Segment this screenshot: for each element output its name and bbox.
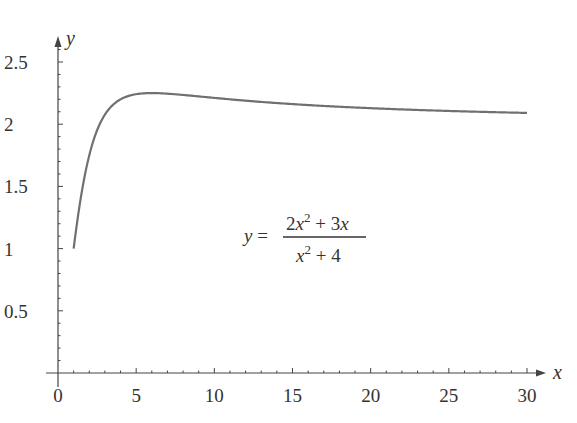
equation-numerator: 2x2 + 3x	[286, 210, 349, 234]
x-axis-label: x	[552, 361, 562, 383]
y-axis-label: y	[64, 27, 75, 50]
chart: x051015202530 y0.511.522.5 y = 2x2 + 3x …	[0, 0, 577, 423]
x-axis-arrow-icon	[536, 370, 546, 377]
y-axis-arrow-icon	[55, 36, 62, 47]
y-tick-label: 2.5	[4, 52, 28, 73]
y-tick-label: 0.5	[4, 301, 28, 322]
y-axis: y0.511.522.5	[4, 27, 75, 387]
equation-denominator: x2 + 4	[295, 242, 341, 266]
function-equation: y = 2x2 + 3x x2 + 4	[242, 210, 366, 266]
x-tick-label: 15	[283, 385, 302, 406]
x-tick-label: 0	[53, 385, 63, 406]
x-tick-label: 10	[205, 385, 224, 406]
x-axis: x051015202530	[46, 361, 562, 406]
x-tick-label: 20	[361, 385, 380, 406]
y-tick-label: 1.5	[4, 176, 28, 197]
x-tick-label: 25	[439, 385, 458, 406]
y-tick-label: 1	[4, 239, 14, 260]
x-tick-label: 5	[131, 385, 141, 406]
y-tick-label: 2	[4, 114, 14, 135]
x-tick-label: 30	[518, 385, 537, 406]
equation-lhs: y =	[242, 225, 268, 246]
